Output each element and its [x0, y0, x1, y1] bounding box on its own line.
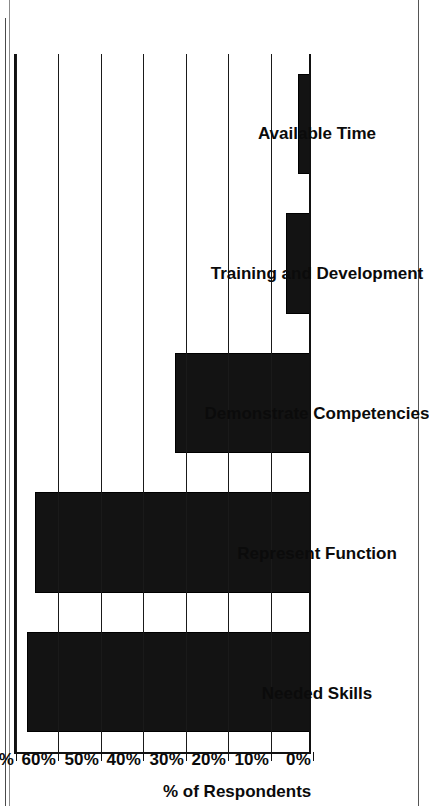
tick-30 — [186, 752, 187, 761]
tick-20 — [228, 752, 229, 761]
gridline-40 — [143, 54, 144, 752]
gridline-50 — [101, 54, 102, 752]
gridline-20 — [228, 54, 229, 752]
tick-60 — [58, 752, 59, 761]
bar-slot — [16, 612, 311, 752]
clipped-footer-text: Demonstrate T — [413, 687, 417, 806]
bar-slot — [16, 473, 311, 613]
tick-10 — [271, 752, 272, 761]
bar — [27, 632, 311, 733]
category-label: Represent Function — [237, 544, 397, 564]
tick-50 — [101, 752, 102, 761]
category-slot: Demonstrate Competencies — [311, 334, 423, 474]
gridline-30 — [186, 54, 187, 752]
category-label: Needed Skills — [262, 684, 373, 704]
gridline-10 — [271, 54, 272, 752]
category-label: Demonstrate Competencies — [205, 404, 429, 424]
bar-series — [16, 54, 311, 752]
tick-70 — [16, 752, 17, 761]
gridline-60 — [58, 54, 59, 752]
tick-40 — [143, 752, 144, 761]
category-label: Available Time — [258, 124, 376, 144]
category-slot: Needed Skills — [311, 614, 423, 754]
gridline-70 — [16, 54, 17, 752]
category-slot: Training and Development — [311, 194, 423, 334]
category-slot: Available Time — [311, 54, 423, 194]
value-axis-tick-labels: 0%10%20%30%40%50%60%70% — [14, 754, 311, 806]
category-label: Training and Development — [211, 264, 424, 284]
clipped-footer-sliver: Demonstrate T — [413, 0, 427, 806]
category-slot: Represent Function — [311, 474, 423, 614]
tick-label-70: 70% — [0, 750, 14, 770]
category-axis-labels: Needed SkillsRepresent FunctionDemonstra… — [311, 54, 423, 754]
